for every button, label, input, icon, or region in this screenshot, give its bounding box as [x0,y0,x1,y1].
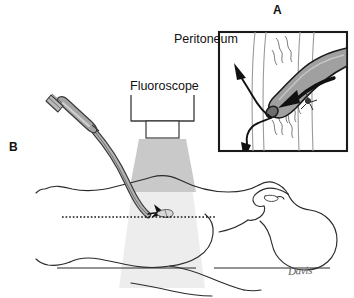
fluoroscope-housing [131,95,194,121]
fluoroscope-collimator [146,121,179,138]
panel-b-label: B [9,141,18,153]
medical-illustration-figure: A B Peritoneum Fluoroscope Davis [0,0,354,298]
fluoroscope-label: Fluoroscope [130,80,199,93]
artist-signature: Davis [288,265,313,277]
peritoneum-label: Peritoneum [174,33,238,46]
panel-a-label: A [273,4,282,16]
endoscope-handle [46,94,99,133]
